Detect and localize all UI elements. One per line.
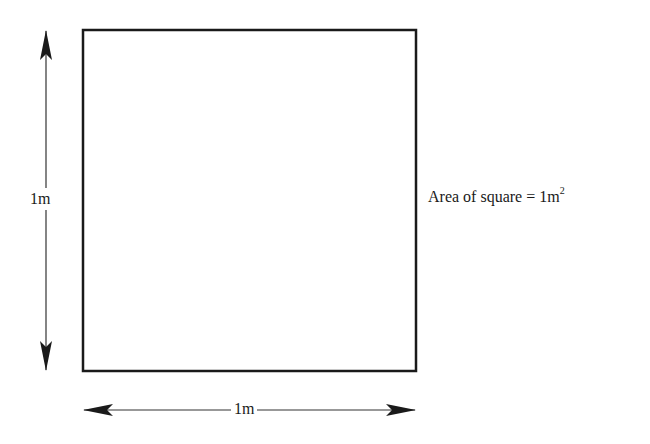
side-length-label-vertical: 1m [30, 188, 50, 210]
square-diagram [0, 0, 650, 444]
area-caption-text: Area of square = 1m [428, 188, 560, 205]
area-caption-exponent: 2 [560, 185, 565, 196]
area-caption: Area of square = 1m2 [428, 188, 565, 206]
square-outline [83, 30, 416, 371]
side-length-label-horizontal: 1m [231, 400, 257, 418]
